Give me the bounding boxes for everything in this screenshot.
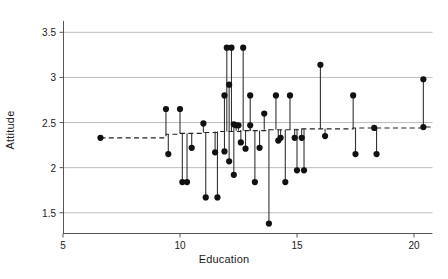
data-point [214, 194, 220, 200]
data-point [184, 179, 190, 185]
y-tick-label: 2.5 [30, 117, 56, 128]
data-point [165, 151, 171, 157]
data-point [294, 167, 300, 173]
data-point [226, 158, 232, 164]
data-point [266, 220, 272, 226]
data-point [247, 122, 253, 128]
data-point [282, 179, 288, 185]
data-point [226, 82, 232, 88]
x-tick-label: 20 [408, 240, 419, 251]
data-point [163, 106, 169, 112]
data-point [371, 125, 377, 131]
data-point [301, 167, 307, 173]
data-point [221, 148, 227, 154]
data-point [273, 92, 279, 98]
data-point [322, 133, 328, 139]
y-tick-label: 1.5 [30, 207, 56, 218]
data-point [177, 106, 183, 112]
y-tick-label: 2 [30, 162, 56, 173]
data-point [231, 172, 237, 178]
data-point [256, 145, 262, 151]
data-point [420, 76, 426, 82]
data-point [287, 92, 293, 98]
x-tick-label: 10 [174, 240, 185, 251]
data-point [228, 45, 234, 51]
data-point [350, 92, 356, 98]
data-point [373, 151, 379, 157]
x-tick-label: 5 [60, 240, 66, 251]
data-point [240, 45, 246, 51]
data-point [247, 92, 253, 98]
y-axis-title: Attitude [4, 99, 16, 161]
data-point [242, 146, 248, 152]
data-point [189, 145, 195, 151]
data-point [200, 120, 206, 126]
y-tick-label: 3 [30, 72, 56, 83]
data-point [420, 124, 426, 130]
x-axis-title: Education [0, 253, 448, 265]
x-tick-label: 15 [291, 240, 302, 251]
fitted-line-group [100, 127, 432, 138]
gridlines-group [64, 32, 433, 212]
data-point [317, 62, 323, 68]
data-point [252, 179, 258, 185]
data-point [299, 135, 305, 141]
data-point [292, 135, 298, 141]
data-point [221, 92, 227, 98]
data-point [261, 110, 267, 116]
data-point [352, 151, 358, 157]
fitted-step-line [100, 127, 432, 138]
data-point [212, 149, 218, 155]
tickmarks-group [60, 32, 415, 237]
residual-plot-figure: 5101520 1.522.533.5 Education Attitude [0, 0, 448, 279]
data-point [238, 139, 244, 145]
data-point [97, 135, 103, 141]
plot-canvas [0, 0, 448, 279]
y-tick-label: 3.5 [30, 27, 56, 38]
data-point [235, 122, 241, 128]
data-point [203, 194, 209, 200]
data-point [278, 135, 284, 141]
